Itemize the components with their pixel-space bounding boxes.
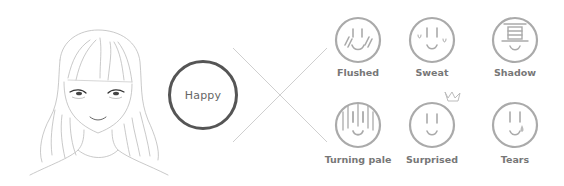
surprised-face-icon [407,100,457,150]
happy-label: Happy [185,89,222,102]
cross-connector-lines [225,40,335,150]
tears-face-icon [490,100,540,150]
flushed-face-icon [333,15,383,65]
turning-pale-face-icon [333,100,383,150]
surprise-crown-mark-icon [443,88,463,104]
shadow-face-icon [490,15,540,65]
shadow-label: Shadow [470,67,560,78]
sweat-face-icon [407,15,457,65]
tears-label: Tears [470,154,560,165]
surprised-label: Surprised [387,154,477,165]
sweat-label: Sweat [387,67,477,78]
